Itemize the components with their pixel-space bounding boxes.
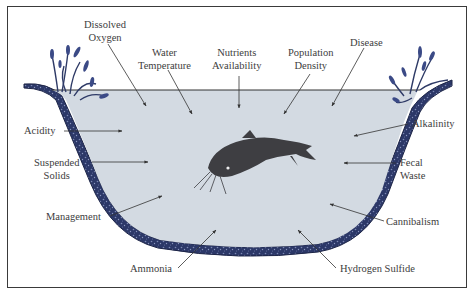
label-management: Management (46, 210, 101, 223)
label-suspended-solids: Suspended Solids (34, 156, 80, 182)
label-dissolved-oxygen: Dissolved Oxygen (84, 18, 126, 44)
label-water-temperature: Water Temperature (138, 46, 191, 72)
label-alkalinity: Alkalinity (412, 117, 455, 130)
label-population-density: Population Density (288, 46, 334, 72)
label-ammonia: Ammonia (130, 262, 172, 275)
pond-diagram: Dissolved Oxygen Water Temperature Nutri… (0, 0, 476, 298)
label-disease: Disease (350, 36, 383, 49)
pond-illustration (0, 0, 476, 298)
label-cannibalism: Cannibalism (386, 215, 439, 228)
label-nutrients-availability: Nutrients Availability (212, 46, 261, 72)
label-hydrogen-sulfide: Hydrogen Sulfide (340, 262, 415, 275)
label-fecal-waste: Fecal Waste (400, 156, 425, 182)
label-acidity: Acidity (24, 124, 56, 137)
